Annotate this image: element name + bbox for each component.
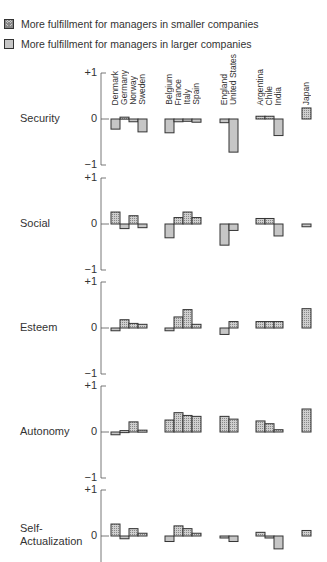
bar [274,536,283,549]
y-tick-label: 0 [91,529,97,541]
bar [129,529,138,536]
bar [274,430,283,432]
bar [256,532,265,536]
y-tick-label: −1 [84,158,97,170]
bar [165,224,174,238]
bar [265,322,274,328]
bar [192,416,201,432]
panel-label: Autonomy [20,425,70,438]
bar [220,119,229,123]
bar [220,536,229,538]
bar [229,322,238,328]
bar [183,119,192,121]
bar [138,224,147,228]
bar [302,309,311,328]
panel-label: Esteem [20,321,57,334]
bar [220,416,229,432]
bar [111,212,120,224]
country-label: India [274,87,283,105]
y-axis [101,490,106,562]
panel-label: Security [20,112,60,125]
bar [256,322,265,328]
y-tick-label: +1 [84,275,97,287]
bar [138,533,147,536]
bar [120,431,129,433]
bar [256,116,265,119]
bar [229,119,238,152]
y-tick-label: +1 [84,66,97,78]
bar [183,310,192,328]
bar [111,328,120,331]
bar [274,224,283,236]
bar [120,536,129,539]
bar [120,117,129,119]
bar [265,424,274,432]
y-tick-label: +1 [84,483,97,495]
bar [174,218,183,224]
bar [220,224,229,245]
bar [220,328,229,334]
bar [183,415,192,432]
bar [265,116,274,119]
bar [229,419,238,432]
y-tick-label: +1 [84,379,97,391]
bar [274,119,283,136]
bar [256,421,265,432]
bar [120,320,129,328]
bar [302,108,311,119]
bar [120,224,129,229]
y-tick-label: 0 [91,425,97,437]
country-label: Spain [192,83,201,105]
country-label: Japan [302,82,311,105]
bar [111,119,120,129]
bar [192,324,201,328]
bar [129,216,138,224]
bar [174,413,183,432]
bar [129,323,138,328]
y-tick-label: +1 [84,171,97,183]
bar [165,420,174,432]
bar [183,529,192,536]
panel-label: Self-Actualization [20,522,82,548]
bar [192,119,201,122]
bar [165,328,174,331]
bar [138,324,147,328]
bar [129,119,138,122]
bar [256,218,265,224]
bar [192,218,201,224]
bar [165,119,174,133]
y-tick-label: −1 [84,367,97,379]
bar [274,322,283,328]
y-tick-label: 0 [91,112,97,124]
country-label: Sweden [138,74,147,105]
bar [174,119,183,122]
bar [138,119,147,132]
bar [302,530,311,536]
bar [265,218,274,224]
panel-label: Social [20,217,50,230]
y-tick-label: 0 [91,321,97,333]
bar [183,212,192,224]
bar [174,526,183,536]
y-tick-label: 0 [91,217,97,229]
bar [174,317,183,328]
bar [229,224,238,230]
bar [192,533,201,536]
bar [138,430,147,432]
y-tick-label: −1 [84,471,97,483]
bar [265,536,274,538]
bar [111,432,120,435]
bar [229,536,238,542]
country-label: United States [229,54,238,105]
bar [165,536,174,542]
bar [111,524,120,536]
bar [302,409,311,432]
bar [129,422,138,432]
y-tick-label: −1 [84,263,97,275]
bar [302,224,311,227]
